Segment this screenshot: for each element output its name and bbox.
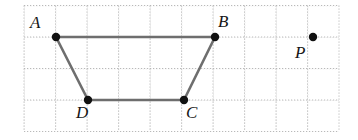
geometry-figure: A B C D P xyxy=(0,0,358,140)
label-c: C xyxy=(186,104,197,121)
label-p: P xyxy=(295,44,305,61)
vertex-b xyxy=(211,33,219,41)
label-d: D xyxy=(76,104,88,121)
point-p xyxy=(309,33,317,41)
geometry-canvas xyxy=(0,0,358,140)
label-b: B xyxy=(218,13,228,30)
label-a: A xyxy=(30,14,40,31)
vertex-a xyxy=(52,33,60,41)
